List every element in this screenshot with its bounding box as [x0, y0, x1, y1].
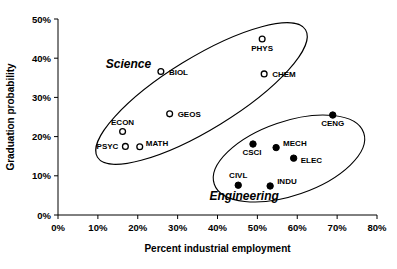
x-tick-label: 10% — [88, 222, 108, 233]
y-tick-label: 40% — [32, 53, 52, 64]
x-tick-label: 70% — [328, 222, 348, 233]
y-tick-label: 30% — [32, 92, 52, 103]
data-point-phys — [259, 36, 265, 42]
data-point-chem — [261, 71, 267, 77]
cluster-ellipse-science — [79, 0, 325, 188]
data-point-label-biol: BIOL — [169, 68, 188, 77]
data-point-mech — [273, 144, 279, 150]
y-tick-label: 10% — [32, 170, 52, 181]
y-axis-title: Graduation probability — [5, 63, 16, 171]
data-point-econ — [120, 129, 126, 135]
y-tick-label: 0% — [37, 210, 51, 221]
data-point-psyc — [122, 144, 128, 150]
scatter-chart-figure: 0%10%20%30%40%50%0%10%20%30%40%50%60%70%… — [0, 0, 397, 269]
x-tick-label: 60% — [288, 222, 308, 233]
x-tick-label: 30% — [168, 222, 188, 233]
group-annotation-engineering: Engineering — [210, 189, 280, 203]
x-tick-label: 20% — [128, 222, 148, 233]
data-point-label-phys: PHYS — [251, 44, 273, 53]
data-point-label-econ: ECON — [111, 118, 134, 127]
data-point-label-geos: GEOS — [178, 110, 202, 119]
y-tick-label: 50% — [32, 14, 52, 25]
data-point-label-psyc: PSYC — [97, 142, 119, 151]
data-point-geos — [167, 111, 173, 117]
y-tick-label: 20% — [32, 131, 52, 142]
x-tick-label: 50% — [248, 222, 268, 233]
group-annotation-science: Science — [106, 57, 152, 71]
x-tick-label: 40% — [208, 222, 228, 233]
data-point-biol — [158, 69, 164, 75]
x-tick-label: 0% — [51, 222, 65, 233]
data-point-label-ceng: CENG — [321, 119, 344, 128]
x-tick-label: 80% — [367, 222, 387, 233]
data-point-elec — [290, 155, 296, 161]
data-point-csci — [250, 141, 256, 147]
data-point-label-chem: CHEM — [272, 70, 296, 79]
data-point-label-math: MATH — [146, 139, 169, 148]
x-axis-title: Percent industrial employment — [144, 243, 291, 254]
data-point-label-indu: INDU — [277, 177, 297, 186]
data-point-ceng — [330, 112, 336, 118]
chart-canvas: 0%10%20%30%40%50%0%10%20%30%40%50%60%70%… — [0, 0, 397, 269]
data-point-label-mech: MECH — [283, 139, 307, 148]
data-point-label-elec: ELEC — [301, 156, 323, 165]
data-point-civl — [235, 182, 241, 188]
data-point-label-civl: CIVL — [229, 171, 247, 180]
data-point-label-csci: CSCI — [242, 148, 261, 157]
data-point-math — [137, 144, 143, 150]
